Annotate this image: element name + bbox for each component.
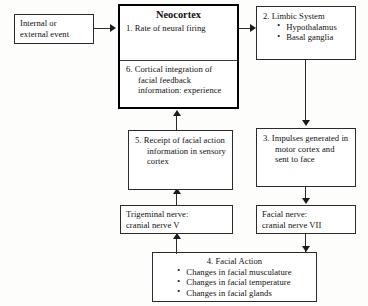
node-facial-action-body: 4. Facial Action Changes in facial muscu… xyxy=(153,253,316,298)
connector-event-to-neocortex-line xyxy=(94,28,111,29)
node-facial-nerve: Facial nerve: cranial nerve VII xyxy=(256,205,356,234)
node-impulses: 3. Impulses generated in motor cortex an… xyxy=(256,128,356,187)
node-neocortex-item-6: 6. Cortical integration of facial feedba… xyxy=(120,61,237,96)
node-limbic-system: 2. Limbic System Hypothalamus Basal gang… xyxy=(256,6,356,60)
node-receipt-text: 5. Receipt of facial action information … xyxy=(129,131,232,167)
list-item: Hypothalamus xyxy=(277,22,337,33)
node-limbic-bullets: Hypothalamus Basal ganglia xyxy=(277,22,337,43)
node-neocortex-item-1: 1. Rate of neural firing xyxy=(120,21,237,34)
node-neocortex-heading: Neocortex xyxy=(120,6,237,21)
node-internal-external-event: Internal or external event xyxy=(14,14,94,44)
list-item: Changes in facial temperature xyxy=(177,277,291,288)
list-item: Changes in facial musculature xyxy=(177,267,291,278)
node-event-text: Internal or external event xyxy=(15,15,93,41)
node-limbic-body: 2. Limbic System Hypothalamus Basal gang… xyxy=(257,7,355,43)
list-item: Basal ganglia xyxy=(277,32,337,43)
node-limbic-heading: 2. Limbic System xyxy=(263,11,351,22)
node-neocortex: Neocortex 1. Rate of neural firing 6. Co… xyxy=(118,4,239,109)
node-facial-nerve-text: Facial nerve: cranial nerve VII xyxy=(257,206,355,232)
node-neocortex-lower: 6. Cortical integration of facial feedba… xyxy=(120,61,237,106)
facial-feedback-diagram: Internal or external event Neocortex 1. … xyxy=(0,0,368,306)
node-impulses-text: 3. Impulses generated in motor cortex an… xyxy=(257,129,355,165)
node-trigeminal-nerve: Trigeminal nerve: cranial nerve V xyxy=(120,205,233,234)
connector-receipt-to-neocortex-arrowhead xyxy=(173,110,181,116)
node-facial-action: 4. Facial Action Changes in facial muscu… xyxy=(152,252,317,302)
node-receipt: 5. Receipt of facial action information … xyxy=(128,130,233,190)
node-facial-action-heading: 4. Facial Action xyxy=(157,256,312,267)
connector-impulses-to-facial-nerve-arrowhead xyxy=(302,198,310,204)
node-facial-action-bullets: Changes in facial musculature Changes in… xyxy=(177,267,291,299)
connector-limbic-to-impulses-arrowhead xyxy=(302,120,310,126)
connector-limbic-to-impulses-line xyxy=(305,60,306,122)
list-item: Changes in facial glands xyxy=(177,288,291,299)
node-neocortex-upper: Neocortex 1. Rate of neural firing xyxy=(120,6,237,60)
node-trigeminal-nerve-text: Trigeminal nerve: cranial nerve V xyxy=(121,206,232,232)
connector-event-to-neocortex-arrowhead xyxy=(110,24,116,32)
